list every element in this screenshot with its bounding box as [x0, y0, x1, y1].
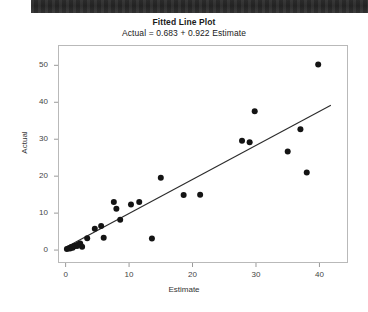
x-axis-tick-marks	[66, 263, 320, 267]
x-axis-title: Estimate	[0, 285, 368, 294]
x-tick-label: 30	[241, 270, 271, 279]
scatter-point	[128, 202, 134, 208]
scatter-point	[181, 192, 187, 198]
scatter-point	[117, 217, 123, 223]
scatter-point	[252, 108, 258, 114]
x-tick-label: 0	[51, 270, 81, 279]
scatter-point	[304, 169, 310, 175]
x-tick-label: 10	[114, 270, 144, 279]
y-tick-label: 20	[22, 171, 48, 180]
scatter-point	[92, 226, 98, 232]
y-axis-title: Actual	[20, 113, 29, 173]
scatter-point	[297, 126, 303, 132]
plot-canvas	[0, 0, 368, 312]
y-tick-label: 10	[22, 208, 48, 217]
scatter-point	[315, 62, 321, 68]
scatter-point	[247, 139, 253, 145]
y-tick-label: 50	[22, 60, 48, 69]
scatter-point	[84, 235, 90, 241]
fitted-line-plot: Fitted Line Plot Actual = 0.683 + 0.922 …	[0, 0, 368, 312]
y-tick-label: 0	[22, 245, 48, 254]
y-tick-label: 40	[22, 97, 48, 106]
x-tick-label: 40	[304, 270, 334, 279]
scatter-point	[239, 138, 245, 144]
y-axis-tick-marks	[54, 65, 58, 250]
scatter-points	[64, 62, 321, 252]
scatter-point	[136, 199, 142, 205]
scatter-point	[111, 199, 117, 205]
scatter-point	[98, 223, 104, 229]
scatter-point	[285, 148, 291, 154]
scatter-point	[113, 206, 119, 212]
regression-fit-line	[66, 105, 331, 247]
scatter-point	[101, 235, 107, 241]
scatter-point	[149, 236, 155, 242]
scatter-point	[158, 175, 164, 181]
scatter-point	[79, 244, 85, 250]
x-tick-label: 20	[178, 270, 208, 279]
scatter-point	[197, 192, 203, 198]
